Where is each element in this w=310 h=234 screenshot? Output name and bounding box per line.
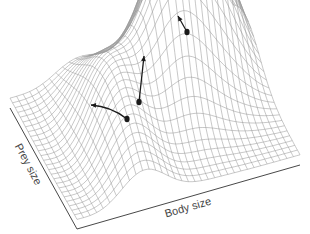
mesh-line-width [15,0,238,108]
mesh-line-width [72,145,295,210]
population-dot-icon [136,99,141,105]
mesh-line-depth [167,0,234,173]
arrow-shaft [139,56,144,102]
mesh-line-width [59,105,282,188]
mesh-line-depth [49,79,116,196]
mesh-line-depth [181,0,248,169]
fitness-landscape-figure: Prey size Body size [0,0,310,234]
population-dot-icon [124,116,129,122]
mesh-line-width [10,0,233,98]
wireframe-surface [0,0,310,234]
mesh-line-width [64,123,287,197]
population-dot-icon [184,29,189,35]
mesh-line-depth [154,0,221,176]
mesh-line-depth [226,0,293,157]
mesh-line-depth [23,94,90,215]
mesh-line-depth [122,0,189,182]
prey-size-axis-line [10,108,77,229]
arrowhead-icon [91,103,96,108]
mesh-line-width [69,141,292,206]
mesh-line-width [13,0,236,103]
